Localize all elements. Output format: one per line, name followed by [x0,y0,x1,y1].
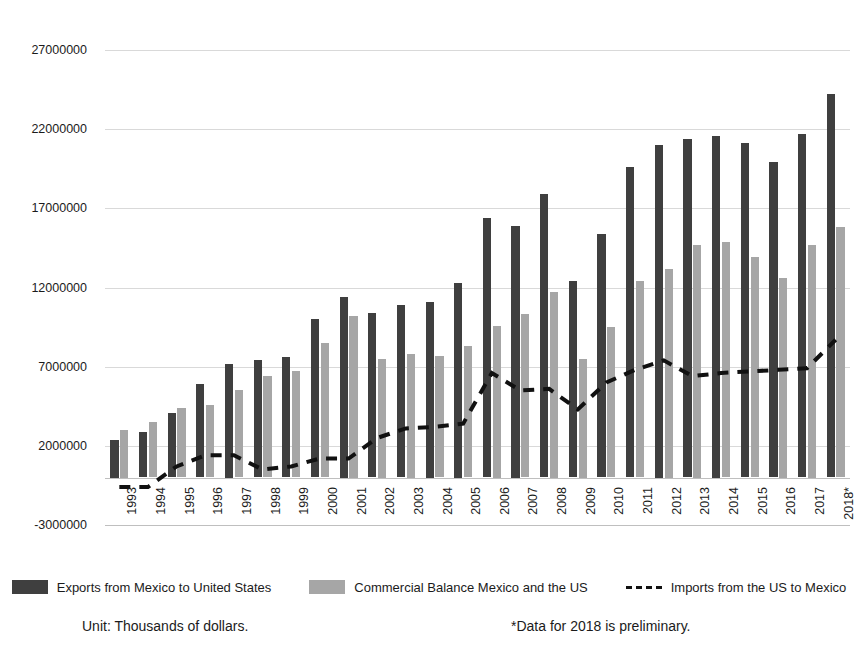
y-tick-label: -3000000 [34,518,87,532]
preliminary-note: *Data for 2018 is preliminary. [511,618,690,634]
bar-group [621,50,650,525]
x-tick-label: 2004 [441,487,455,515]
bar-commercial-balance [349,316,357,478]
x-tick-label: 1998 [269,487,283,515]
bar-commercial-balance [263,376,271,477]
bar-exports [626,167,634,477]
bar-exports [769,162,777,477]
x-tick-label: 2009 [584,487,598,515]
bar-commercial-balance [521,314,529,477]
bar-group [420,50,449,525]
bar-group [191,50,220,525]
bar-commercial-balance [149,422,157,477]
bar-commercial-balance [693,245,701,478]
bar-commercial-balance [722,242,730,478]
chart-legend: Exports from Mexico to United StatesComm… [0,572,858,602]
bar-commercial-balance [235,390,243,477]
bar-exports [282,357,290,477]
bar-group [592,50,621,525]
bar-group [363,50,392,525]
trade-chart: 2700000022000000170000001200000070000002… [0,0,858,664]
bar-group [105,50,134,525]
legend-label: Commercial Balance Mexico and the US [354,580,587,595]
bar-commercial-balance [493,326,501,478]
x-tick-label: 2001 [355,487,369,515]
bar-commercial-balance [665,269,673,478]
bar-exports [254,360,262,477]
bar-exports [483,218,491,478]
bar-group [678,50,707,525]
chart-notes: Unit: Thousands of dollars. *Data for 20… [0,618,858,654]
y-tick-label: 2000000 [38,439,87,453]
x-tick-label: 2000 [326,487,340,515]
bar-exports [540,194,548,477]
y-tick-label: 27000000 [31,43,87,57]
bar-commercial-balance [407,354,415,478]
x-tick-label: 2015 [756,487,770,515]
bar-group [535,50,564,525]
legend-item[interactable]: Commercial Balance Mexico and the US [309,580,587,595]
bar-group [162,50,191,525]
bar-commercial-balance [120,430,128,478]
bar-group [707,50,736,525]
bar-commercial-balance [464,346,472,477]
bar-commercial-balance [292,371,300,477]
unit-note: Unit: Thousands of dollars. [82,618,248,634]
legend-item[interactable]: Exports from Mexico to United States [12,580,272,595]
bar-group [248,50,277,525]
bar-exports [511,226,519,478]
bar-group [735,50,764,525]
bar-exports [340,297,348,478]
bar-exports [712,136,720,478]
x-tick-label: 2008 [555,487,569,515]
legend-item[interactable]: Imports from the US to Mexico [626,580,847,595]
bar-commercial-balance [177,408,185,478]
bar-groups [105,50,850,525]
x-tick-label: 1997 [240,487,254,515]
x-axis-labels: 1993199419951996199719981999200020012002… [105,487,850,547]
x-tick-label: 2014 [727,487,741,515]
bar-group [220,50,249,525]
bar-group [563,50,592,525]
bar-group [134,50,163,525]
x-tick-label: 2007 [526,487,540,515]
legend-label: Imports from the US to Mexico [671,580,847,595]
bar-commercial-balance [607,327,615,477]
y-tick-label: 12000000 [31,281,87,295]
exports-swatch-icon [12,580,48,594]
y-tick-label: 22000000 [31,122,87,136]
x-tick-label: 2017 [813,487,827,515]
x-tick-label: 1995 [183,487,197,515]
bar-commercial-balance [751,257,759,477]
bar-exports [597,234,605,478]
bar-group [506,50,535,525]
bar-exports [454,283,462,478]
x-tick-label: 2011 [641,487,655,514]
bar-group [649,50,678,525]
bar-exports [827,94,835,477]
balance-swatch-icon [309,580,345,594]
plot-area [105,50,850,525]
bar-exports [426,302,434,478]
x-tick-label: 1996 [211,487,225,515]
x-tick-label: 2013 [698,487,712,515]
x-tick-label: 2005 [469,487,483,515]
x-tick-label: 1999 [297,487,311,515]
bar-group [449,50,478,525]
bar-exports [798,134,806,478]
bar-commercial-balance [321,343,329,478]
bar-exports [139,432,147,478]
y-tick-label: 17000000 [31,201,87,215]
bar-commercial-balance [636,281,644,477]
x-tick-label: 2012 [670,487,684,515]
bar-group [764,50,793,525]
bar-exports [655,145,663,478]
x-tick-label: 1993 [125,487,139,515]
x-tick-label: 2002 [383,487,397,515]
bar-exports [741,143,749,477]
dashed-line-icon [626,580,662,594]
bar-commercial-balance [206,405,214,478]
x-tick-label: 1994 [154,487,168,515]
bar-group [478,50,507,525]
bar-group [277,50,306,525]
